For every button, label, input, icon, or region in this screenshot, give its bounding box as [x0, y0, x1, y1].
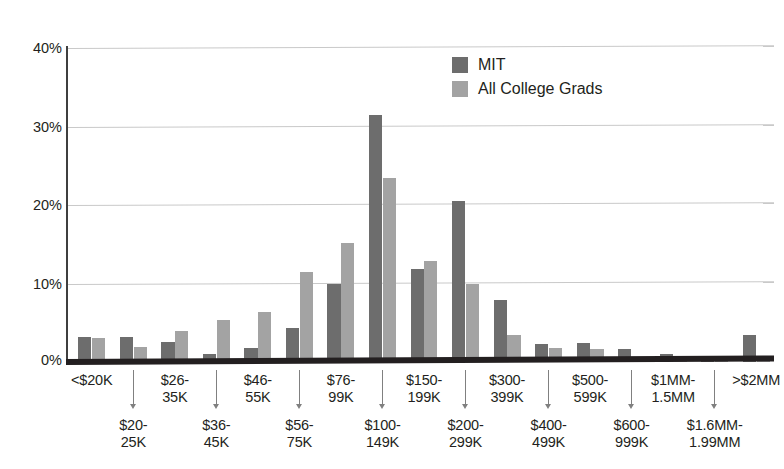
bars-layer [68, 48, 774, 362]
x-axis-tick-label: $200- 299K [428, 417, 504, 451]
legend-swatch-icon [452, 81, 468, 97]
x-axis-tick-label: $20- 25K [95, 417, 171, 451]
bar-mit [494, 300, 507, 362]
y-tick-40: 40% [0, 40, 62, 56]
bar-grads [217, 320, 230, 362]
bar-grads [424, 261, 437, 362]
income-distribution-bar-chart: 40% 30% 20% 10% 0% MIT All College Grads… [0, 0, 784, 469]
bar-grads [300, 272, 313, 362]
bar-mit [452, 201, 465, 362]
x-axis-tick-label: $1.6MM- 1.99MM [677, 417, 753, 451]
y-tick-label: 30% [33, 119, 62, 135]
bar-mit [327, 284, 340, 363]
x-axis-tick-label: $36- 45K [178, 417, 254, 451]
x-axis-tick-label: $400- 499K [511, 417, 587, 451]
y-tick-20: 20% [0, 197, 62, 213]
legend-item-mit: MIT [452, 56, 603, 74]
y-tick-30: 30% [0, 119, 62, 135]
x-axis-tick-label: $26- 35K [137, 372, 213, 406]
x-axis-tick-label: $600- 999K [594, 417, 670, 451]
bar-grads [258, 312, 271, 362]
y-tick-label: 40% [33, 40, 62, 56]
bar-grads [341, 243, 354, 362]
y-tick-label: 10% [33, 276, 62, 292]
legend-label: All College Grads [478, 80, 603, 98]
x-axis-tick-label: >$2MM [718, 372, 784, 389]
legend-label: MIT [478, 56, 506, 74]
x-axis-tick-label: $100- 149K [344, 417, 420, 451]
bar-mit [369, 115, 382, 362]
legend-swatch-icon [452, 57, 468, 73]
y-tick-10: 10% [0, 276, 62, 292]
bar-grads [383, 178, 396, 362]
x-axis-tick-label: $1MM- 1.5MM [635, 372, 711, 406]
bar-grads [175, 331, 188, 362]
chart-legend: MIT All College Grads [452, 56, 603, 98]
x-axis-labels: <$20K$20- 25K$26- 35K$36- 45K$46- 55K$56… [0, 362, 784, 469]
y-tick-label: 20% [33, 197, 62, 213]
bar-mit [411, 269, 424, 362]
x-axis-tick-label: $300- 399K [469, 372, 545, 406]
x-axis-tick-label: $500- 599K [552, 372, 628, 406]
x-axis-tick-label: $150- 199K [386, 372, 462, 406]
x-axis-tick-label: <$20K [54, 372, 130, 389]
legend-item-all-college-grads: All College Grads [452, 80, 603, 98]
bar-grads [466, 284, 479, 363]
x-axis-tick-label: $76- 99K [303, 372, 379, 406]
x-axis-tick-label: $56- 75K [261, 417, 337, 451]
x-axis-tick-label: $46- 55K [220, 372, 296, 406]
